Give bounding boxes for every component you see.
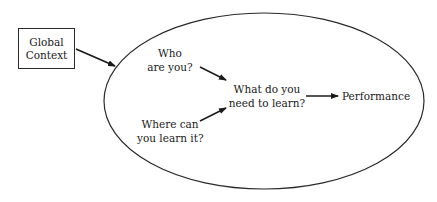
global-context-line1: Global [26, 36, 68, 49]
arrow-who-to-what [200, 67, 226, 80]
where-line2: you learn it? [137, 131, 203, 145]
node-performance: Performance [342, 89, 412, 103]
node-who-are-you: Who are you? [140, 46, 200, 74]
what-line1: What do you [228, 82, 306, 96]
node-what-do-you-need-to-learn: What do you need to learn? [228, 82, 306, 110]
global-context-line2: Context [26, 49, 68, 62]
arrow-global-to-ellipse [76, 49, 115, 66]
global-context-box: Global Context [18, 28, 75, 69]
performance-label: Performance [342, 89, 412, 103]
who-line2: are you? [140, 60, 200, 74]
where-line1: Where can [137, 117, 203, 131]
node-where-can-you-learn: Where can you learn it? [137, 117, 203, 145]
arrow-where-to-what [200, 108, 226, 121]
who-line1: Who [140, 46, 200, 60]
what-line2: need to learn? [228, 96, 306, 110]
diagram-canvas: Global Context Who are you? Where can yo… [0, 0, 437, 202]
